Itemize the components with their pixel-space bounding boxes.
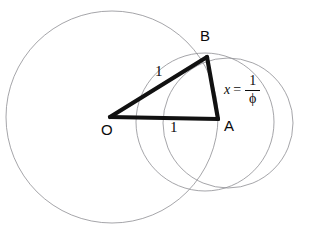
length-label-ab-expression: x = 1 ϕ bbox=[224, 74, 260, 106]
fraction-one-over-phi: 1 ϕ bbox=[245, 74, 260, 106]
length-label-oa: 1 bbox=[170, 120, 178, 135]
segment-a-to-b bbox=[207, 57, 218, 119]
segment-o-to-a bbox=[110, 117, 218, 119]
length-label-ob: 1 bbox=[155, 64, 163, 79]
fraction-denominator: ϕ bbox=[246, 91, 259, 107]
vertex-label-o: O bbox=[101, 122, 113, 137]
vertex-label-a: A bbox=[224, 118, 234, 133]
diagram-canvas: O A B 1 1 x = 1 ϕ bbox=[0, 0, 309, 232]
vertex-label-b: B bbox=[200, 28, 210, 43]
fraction-numerator: 1 bbox=[246, 74, 259, 90]
geometry-figure bbox=[0, 0, 309, 232]
equals-sign: = bbox=[233, 83, 241, 97]
x-variable: x bbox=[224, 83, 230, 97]
